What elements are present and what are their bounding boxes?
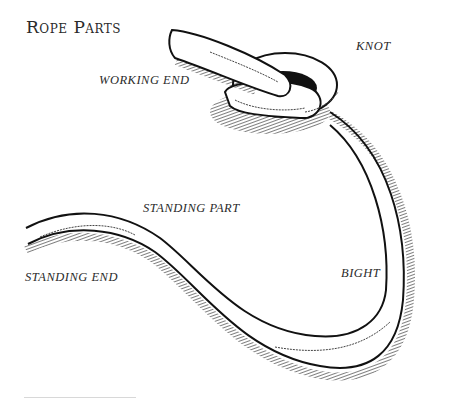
divider-rule xyxy=(24,397,136,398)
label-working-end: WORKING END xyxy=(99,73,190,88)
rope-illustration xyxy=(0,0,463,399)
rope-shadow-hatching xyxy=(26,115,411,377)
label-knot: KNOT xyxy=(356,39,391,54)
label-bight: BIGHT xyxy=(341,266,380,281)
label-standing-part: STANDING PART xyxy=(143,201,240,216)
label-standing-end: STANDING END xyxy=(25,270,118,285)
